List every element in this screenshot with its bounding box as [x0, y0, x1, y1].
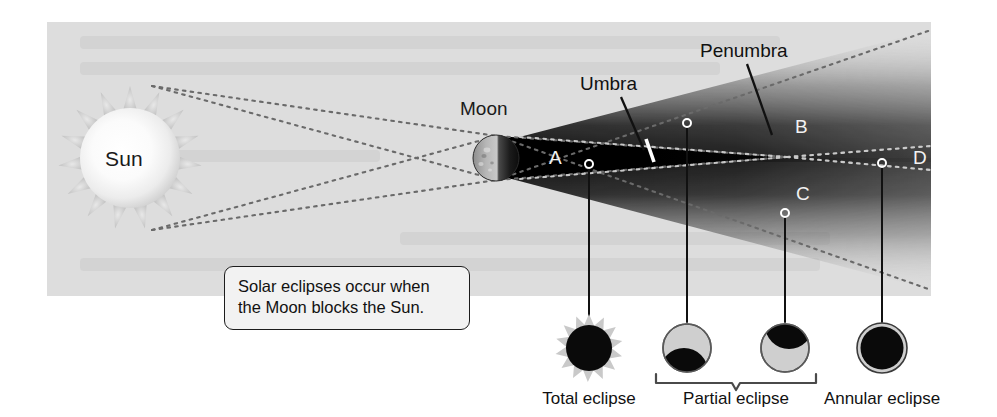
- caption-line-1: Solar eclipses occur when: [238, 276, 457, 297]
- legend-label-total: Total eclipse: [519, 389, 659, 409]
- partial-eclipse-icon-upper: [761, 301, 813, 372]
- annular-eclipse-icon: [857, 323, 907, 373]
- legend-label-annular: Annular eclipse: [812, 389, 952, 409]
- solar-eclipse-figure: Sun Moon Umbra Penumbra A B C D Solar ec…: [0, 0, 997, 417]
- total-eclipse-icon: [554, 314, 623, 382]
- diagram-canvas: [0, 0, 997, 417]
- partial-eclipse-icon-lower: [660, 324, 711, 396]
- legend-label-partial: Partial eclipse: [666, 389, 806, 409]
- partial-eclipse-bracket: [656, 374, 816, 390]
- caption-line-2: the Moon blocks the Sun.: [238, 297, 457, 318]
- caption-box: Solar eclipses occur when the Moon block…: [224, 266, 470, 330]
- moon-graphic: [473, 135, 519, 181]
